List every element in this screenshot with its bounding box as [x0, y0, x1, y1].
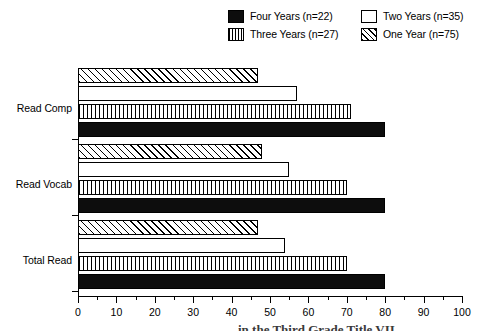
bar — [78, 220, 258, 235]
x-tick-label: 40 — [217, 306, 247, 318]
x-tick-label: 90 — [409, 306, 439, 318]
bar — [78, 274, 385, 289]
y-tick — [72, 291, 78, 292]
x-tick-major — [193, 296, 194, 303]
x-tick-minor — [443, 296, 444, 300]
x-tick-major — [347, 296, 348, 303]
bar — [78, 238, 285, 253]
x-tick-label: 30 — [178, 306, 208, 318]
bar — [78, 104, 351, 119]
x-tick-minor — [366, 296, 367, 300]
x-tick-major — [308, 296, 309, 303]
x-tick-minor — [174, 296, 175, 300]
bar — [78, 86, 297, 101]
x-tick-major — [232, 296, 233, 303]
x-tick-major — [385, 296, 386, 303]
x-tick-major — [155, 296, 156, 303]
x-tick-minor — [328, 296, 329, 300]
bar — [78, 198, 385, 213]
figure-caption: in the Third Grade Title VII — [238, 322, 395, 331]
x-tick-label: 20 — [140, 306, 170, 318]
bar — [78, 144, 262, 159]
x-tick-label: 50 — [255, 306, 285, 318]
bar — [78, 180, 347, 195]
y-tick — [72, 139, 78, 140]
x-tick-major — [270, 296, 271, 303]
x-tick-major — [424, 296, 425, 303]
bar — [78, 68, 258, 83]
x-tick-label: 80 — [370, 306, 400, 318]
x-tick-minor — [404, 296, 405, 300]
x-tick-minor — [136, 296, 137, 300]
x-tick-label: 10 — [101, 306, 131, 318]
x-tick-minor — [212, 296, 213, 300]
bar-chart-plot: 0102030405060708090100 Read CompRead Voc… — [0, 0, 485, 331]
x-tick-label: 100 — [447, 306, 477, 318]
x-tick-label: 0 — [63, 306, 93, 318]
bar — [78, 162, 289, 177]
category-label: Read Comp — [2, 102, 72, 114]
y-tick — [72, 215, 78, 216]
bar — [78, 256, 347, 271]
category-label: Total Read — [2, 254, 72, 266]
x-tick-minor — [97, 296, 98, 300]
x-tick-major — [462, 296, 463, 303]
category-label: Read Vocab — [2, 178, 72, 190]
x-tick-major — [78, 296, 79, 303]
bar — [78, 122, 385, 137]
x-tick-label: 60 — [293, 306, 323, 318]
x-tick-label: 70 — [332, 306, 362, 318]
x-tick-minor — [289, 296, 290, 300]
x-tick-minor — [251, 296, 252, 300]
x-tick-major — [116, 296, 117, 303]
